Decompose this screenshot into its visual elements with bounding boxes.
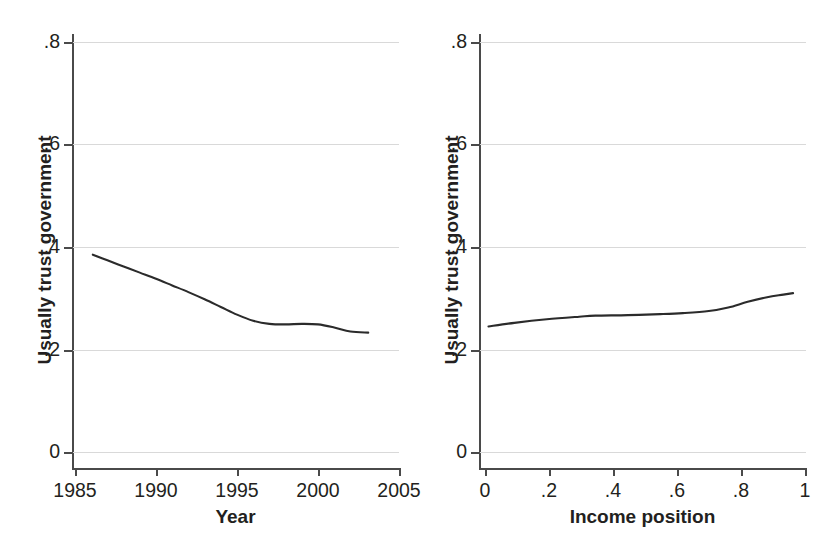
x-axis-title-left: Year — [72, 506, 399, 528]
y-axis-title-right: Usually trust government — [441, 30, 471, 470]
chart-panel-year: .8 .6 .4 .2 0 1985 1990 1995 2000 2005 Y… — [0, 0, 407, 552]
x-axis-title-right: Income position — [479, 506, 806, 528]
figure-container: .8 .6 .4 .2 0 1985 1990 1995 2000 2005 Y… — [0, 0, 814, 552]
chart-panel-income: .8 .6 .4 .2 0 0 .2 .4 .6 .8 1 Income pos… — [407, 0, 814, 552]
y-axis-title-left: Usually trust government — [34, 30, 64, 470]
